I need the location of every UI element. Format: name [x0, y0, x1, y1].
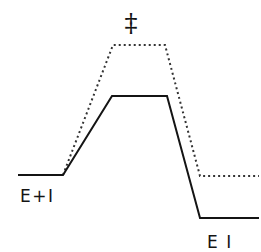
- reactants-label: E+I: [20, 186, 55, 206]
- energy-diagram-svg: ‡ E+I E I: [0, 0, 261, 252]
- reaction-coordinate-figure: ‡ E+I E I: [0, 0, 261, 252]
- products-label: E I: [207, 232, 233, 252]
- transition-state-dagger-label: ‡: [125, 8, 138, 38]
